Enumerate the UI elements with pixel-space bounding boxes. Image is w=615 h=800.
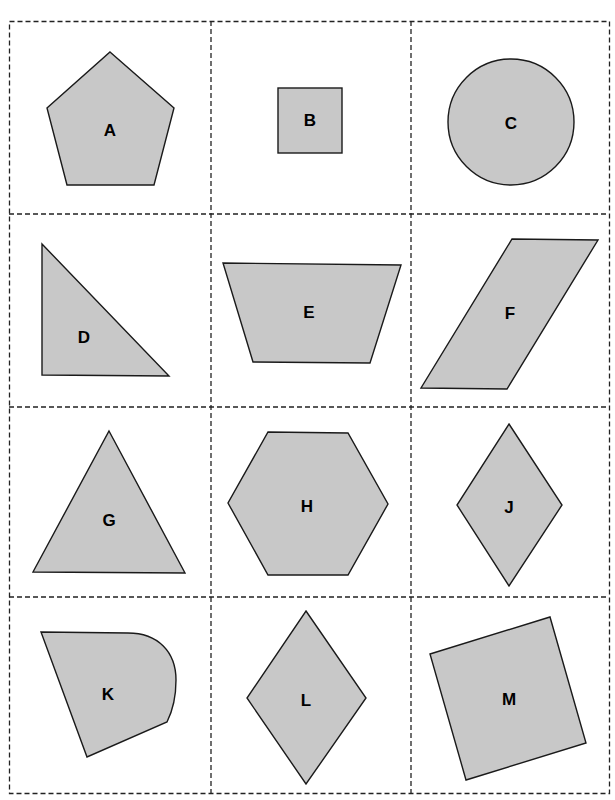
shape-a-pentagon: A bbox=[47, 52, 174, 185]
shape-k-curved-quadrilateral: K bbox=[41, 632, 176, 757]
shape-label: D bbox=[78, 328, 90, 347]
shape-label: A bbox=[104, 121, 116, 140]
shape-label: H bbox=[301, 497, 313, 516]
shape-f-parallelogram: F bbox=[421, 239, 598, 389]
shape-e-trapezoid: E bbox=[223, 263, 401, 363]
shape-label: B bbox=[304, 111, 316, 130]
shape-c-circle: C bbox=[448, 59, 574, 185]
shape-label: K bbox=[102, 685, 115, 704]
shape-h-hexagon: H bbox=[228, 432, 388, 575]
shape-label: M bbox=[502, 690, 516, 709]
shape-label: E bbox=[303, 303, 314, 322]
shape-label: G bbox=[102, 511, 115, 530]
shape-label: J bbox=[504, 498, 513, 517]
shape-j-rhombus: J bbox=[457, 424, 562, 586]
shape-d-right-triangle: D bbox=[42, 244, 169, 376]
shape-g-triangle: G bbox=[33, 431, 185, 573]
shape-label: F bbox=[505, 304, 515, 323]
shapes-grid: A B C D E F G H J K bbox=[0, 0, 615, 800]
shape-m-rotated-square: M bbox=[430, 617, 586, 780]
shape-b-square: B bbox=[278, 88, 342, 153]
shape-label: C bbox=[505, 114, 517, 133]
shape-l-rhombus: L bbox=[247, 611, 366, 784]
shape-label: L bbox=[301, 691, 311, 710]
